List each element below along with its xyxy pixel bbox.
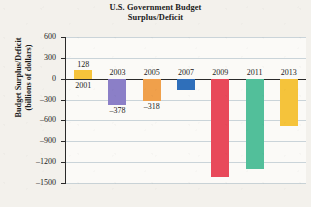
gridline [66,37,306,38]
bar-year-label-2005: 2005 [135,68,169,77]
y-axis-tick [61,37,65,38]
y-axis-tick [61,141,65,142]
chart-title: U.S. Government Budget Surplus/Deficit [0,3,311,23]
bar-value-label-2003: –378 [100,106,134,115]
bar-year-label-2003: 2003 [100,68,134,77]
y-axis-tick-label: 0 [4,75,56,83]
chart-title-line-2: Surplus/Deficit [0,13,311,23]
bar-2003 [108,79,126,105]
y-axis-tick [61,120,65,121]
bar-value-label-2005: –318 [135,102,169,111]
bar-value-label-2001: 128 [66,60,100,69]
bar-2011 [246,79,264,169]
y-axis-tick-label: –900 [4,137,56,145]
chart-figure: U.S. Government Budget Surplus/Deficit B… [0,0,311,207]
gridline [66,183,306,184]
gridline [66,162,306,163]
y-axis-tick [61,162,65,163]
gridline [66,141,306,142]
bar-year-label-2007: 2007 [169,68,203,77]
y-axis-tick [61,79,65,80]
chart-title-line-1: U.S. Government Budget [0,3,311,13]
y-axis-tick-label: –300 [4,96,56,104]
y-axis-tick-label: –1500 [4,179,56,187]
bar-2013 [280,79,298,126]
gridline [66,58,306,59]
gridline [66,120,306,121]
y-axis-tick-label: 600 [4,33,56,41]
bar-2001 [74,70,92,79]
y-axis-tick [61,58,65,59]
y-axis-tick [61,100,65,101]
y-axis-tick-label: 300 [4,54,56,62]
bar-2009 [211,79,229,177]
bar-year-label-2009: 2009 [203,68,237,77]
bar-year-label-2001: 2001 [66,81,100,90]
bar-year-label-2011: 2011 [238,68,272,77]
gridline [66,100,306,101]
bar-2007 [177,79,195,90]
y-axis-tick-label: –1200 [4,158,56,166]
y-axis-tick-label: –600 [4,116,56,124]
y-axis-tick [61,183,65,184]
bar-2005 [143,79,161,101]
bar-year-label-2013: 2013 [272,68,306,77]
